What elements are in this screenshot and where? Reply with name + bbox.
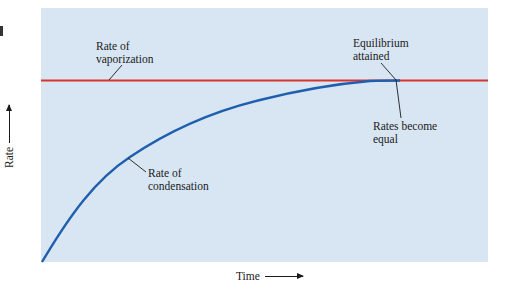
x-axis-label-text: Time: [236, 269, 260, 283]
condensation-label-line1: Rate of: [148, 167, 209, 180]
x-axis-label: Time: [236, 269, 303, 283]
equilibrium-label-line1: Equilibrium: [353, 37, 409, 50]
rates-equal-label: Rates become equal: [373, 120, 437, 146]
vaporization-label-line1: Rate of: [96, 40, 153, 53]
rates-equal-label-line2: equal: [373, 133, 437, 146]
equilibrium-label-line2: attained: [353, 50, 409, 63]
arrow-up-icon: [9, 105, 10, 143]
vaporization-label-line2: vaporization: [96, 53, 153, 66]
vaporization-label: Rate of vaporization: [96, 40, 153, 66]
y-axis-label: Rate: [2, 78, 16, 168]
y-axis-label-text: Rate: [2, 147, 16, 168]
condensation-label: Rate of condensation: [148, 167, 209, 193]
condensation-label-line2: condensation: [148, 180, 209, 193]
arrow-right-icon: [265, 276, 303, 277]
rates-equal-label-line1: Rates become: [373, 120, 437, 133]
equilibrium-label: Equilibrium attained: [353, 37, 409, 63]
